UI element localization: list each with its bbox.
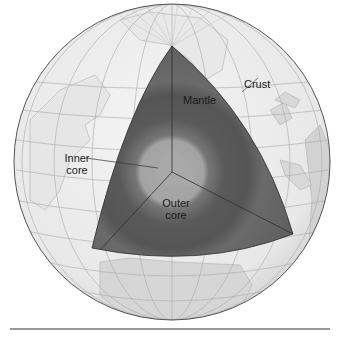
inner-core-label-line2: core <box>62 164 92 176</box>
inner-core-label-line1: Inner <box>62 152 92 164</box>
globe-svg <box>0 0 341 340</box>
outer-core-label-line2: core <box>159 209 193 221</box>
inner-core-label: Inner core <box>62 152 92 176</box>
mantle-label: Mantle <box>183 94 216 106</box>
earth-cutaway-diagram: Crust Mantle Inner core Outer core <box>0 0 341 340</box>
crust-label: Crust <box>244 78 270 90</box>
outer-core-label-line1: Outer <box>159 197 193 209</box>
outer-core-label: Outer core <box>159 197 193 221</box>
bottom-rule <box>10 328 330 330</box>
